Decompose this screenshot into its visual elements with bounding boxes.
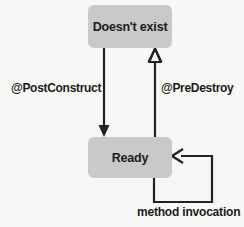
state-node-label: Doesn't exist xyxy=(93,20,168,34)
state-node-label: Ready xyxy=(112,151,149,165)
transition-label-method-invocation: method invocation xyxy=(137,205,240,219)
transition-label-post-construct: @PostConstruct xyxy=(11,81,101,95)
state-node-ready[interactable]: Ready xyxy=(88,137,172,178)
pre-destroy-arrow xyxy=(149,48,162,137)
transition-label-pre-destroy: @PreDestroy xyxy=(161,81,233,95)
state-diagram: Doesn't exist Ready @PostConstruct @PreD… xyxy=(0,0,244,227)
state-node-doesnt-exist[interactable]: Doesn't exist xyxy=(88,5,172,48)
